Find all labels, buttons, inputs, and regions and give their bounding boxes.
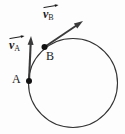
velocity-vector-a-label: vA — [9, 36, 20, 53]
point-a-label: A — [12, 73, 21, 85]
orbit-circle — [29, 39, 118, 128]
velocity-vector-a-arrowhead — [28, 36, 34, 45]
vector-b-subscript: B — [48, 14, 53, 22]
vector-a-subscript: A — [14, 45, 20, 53]
vector-a-symbol-stack: vA — [9, 36, 20, 53]
velocity-vector-b-label: vB — [43, 5, 54, 22]
point-b-label: B — [46, 50, 54, 62]
diagram-canvas — [0, 0, 125, 134]
vector-b-symbol-stack: vB — [43, 5, 54, 22]
point-a-marker — [26, 78, 32, 84]
physics-circle-diagram: vA vB A B — [0, 0, 125, 134]
velocity-vector-b-shaft — [45, 25, 78, 47]
velocity-vector-a-shaft — [29, 43, 31, 81]
velocity-vector-b-arrowhead — [74, 21, 83, 29]
